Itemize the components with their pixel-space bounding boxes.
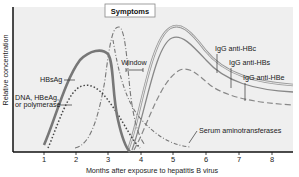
x-tick-label: 2 [74, 155, 78, 164]
x-tick-label: 6 [204, 155, 208, 164]
label-dna-line2: or polymerase [15, 100, 61, 109]
x-tick-label: 5 [171, 155, 175, 164]
window-label: Window [121, 58, 147, 67]
label-igg-anti-hbc: IgG anti-HBc [215, 44, 257, 53]
x-tick-labels: 1 2 3 4 5 6 7 8 [42, 155, 274, 164]
x-tick-label: 7 [237, 155, 241, 164]
label-igg-anti-hbe: IgG anti-HBe [243, 73, 285, 82]
symptoms-box: Symptoms [105, 4, 155, 17]
x-tick-label: 8 [270, 155, 274, 164]
x-tick-label: 3 [106, 155, 110, 164]
label-serum-aminotransferases: Serum aminotransferases [199, 126, 282, 135]
label-igg-anti-hbs: IgG anti-HBs [229, 58, 271, 67]
x-tick-label: 4 [139, 155, 143, 164]
y-axis-title: Relative concentration [1, 34, 10, 105]
label-hbsag: HBsAg [40, 75, 62, 84]
x-axis-title: Months after exposure to hepatitis B vir… [86, 166, 219, 175]
hepatitis-b-serology-chart: 1 2 3 4 5 6 7 8 Months after exposure to… [0, 0, 299, 177]
x-tick-label: 1 [42, 155, 46, 164]
symptoms-label: Symptoms [111, 7, 149, 16]
